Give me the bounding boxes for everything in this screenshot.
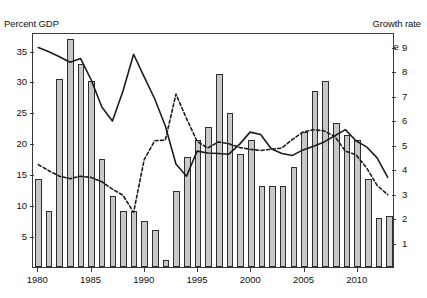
bar	[291, 167, 298, 267]
bar	[216, 74, 223, 267]
bar	[35, 179, 42, 267]
cropped-title-text	[8, 0, 408, 9]
right-axis-tick-label: 6	[402, 115, 424, 126]
right-axis-tick-label: 3	[402, 189, 424, 200]
bar	[322, 81, 329, 267]
bar	[365, 179, 372, 267]
bar	[184, 157, 191, 267]
right-axis-tick-label: 7	[402, 91, 424, 102]
bar	[141, 221, 148, 268]
left-axis-tick-mark	[30, 175, 34, 176]
right-axis-tick-mark	[392, 244, 396, 245]
bar	[312, 91, 319, 267]
x-axis-tick-mark	[197, 268, 198, 272]
x-axis-tick-label: 2010	[346, 274, 367, 285]
bar	[227, 113, 234, 267]
right-axis-tick-label: 1	[402, 238, 424, 249]
bar	[195, 140, 202, 267]
left-axis-tick-mark	[30, 113, 34, 114]
right-axis-tick-mark	[392, 97, 396, 98]
bar	[56, 79, 63, 267]
x-axis-tick-mark	[144, 268, 145, 272]
right-axis-tick-mark	[392, 170, 396, 171]
right-axis-tick-mark	[392, 121, 396, 122]
x-axis-tick-mark	[357, 268, 358, 272]
bar	[280, 186, 287, 267]
right-axis-tick-label: 2	[402, 213, 424, 224]
right-axis-tick-mark	[392, 195, 396, 196]
x-axis-tick-label: 2005	[293, 274, 314, 285]
right-axis-tick-label: 8	[402, 66, 424, 77]
bar	[110, 196, 117, 267]
left-axis-tick-label: 15	[5, 169, 27, 180]
bar	[131, 211, 138, 267]
bar	[259, 186, 266, 267]
x-axis-tick-label: 1990	[133, 274, 154, 285]
right-axis-tick-label: 4	[402, 164, 424, 175]
left-axis-tick-label: 20	[5, 138, 27, 149]
right-axis-tick-mark	[392, 146, 396, 147]
bar	[163, 260, 170, 267]
bar	[120, 211, 127, 267]
x-axis-tick-label: 1985	[80, 274, 101, 285]
left-axis-tick-label: 35	[5, 46, 27, 57]
right-axis-caption: Growth rate	[372, 18, 421, 29]
bar	[269, 186, 276, 267]
x-axis-tick-label: 2000	[240, 274, 261, 285]
left-axis-tick-label: 30	[5, 76, 27, 87]
right-axis-tick-mark	[392, 219, 396, 220]
right-axis-tick-mark	[392, 72, 396, 73]
left-axis-tick-mark	[30, 82, 34, 83]
x-axis-tick-mark	[250, 268, 251, 272]
x-axis-tick-mark	[91, 268, 92, 272]
bar	[46, 211, 53, 267]
left-axis-tick-label: 5	[5, 231, 27, 242]
bar	[205, 127, 212, 267]
left-axis-tick-mark	[30, 144, 34, 145]
bar	[99, 159, 106, 267]
bar	[376, 218, 383, 267]
bar	[237, 154, 244, 267]
right-axis-tick-label: 5	[402, 140, 424, 151]
bar	[333, 123, 340, 267]
bar	[301, 132, 308, 267]
bar	[354, 140, 361, 267]
left-axis-tick-label: 25	[5, 107, 27, 118]
bar	[78, 64, 85, 267]
x-axis-tick-mark	[304, 268, 305, 272]
bar	[344, 135, 351, 267]
bar	[67, 39, 74, 267]
right-axis-tick-mark	[392, 48, 396, 49]
left-axis-tick-mark	[30, 206, 34, 207]
left-axis-tick-mark	[30, 52, 34, 53]
plot-inner	[33, 34, 393, 267]
left-axis-caption: Percent GDP	[4, 18, 59, 29]
plot-area	[32, 33, 394, 268]
left-axis-tick-mark	[30, 237, 34, 238]
bar	[88, 81, 95, 267]
bar	[173, 191, 180, 267]
left-axis-tick-label: 10	[5, 200, 27, 211]
bar	[152, 230, 159, 267]
right-axis-tick-label: 9	[402, 42, 424, 53]
chart-figure: Percent GDP Growth rate Real GDP growth …	[0, 0, 427, 298]
bar	[248, 140, 255, 267]
x-axis-tick-label: 1995	[186, 274, 207, 285]
bar	[386, 216, 393, 267]
x-axis-tick-mark	[37, 268, 38, 272]
x-axis-tick-label: 1980	[27, 274, 48, 285]
